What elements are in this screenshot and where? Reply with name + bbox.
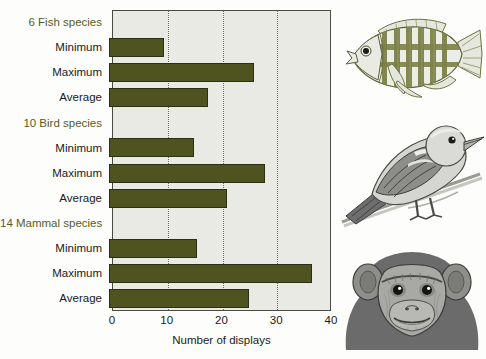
chart-bar-row: Average xyxy=(0,85,338,110)
chart-bar-row: Minimum xyxy=(0,236,338,261)
chart-bar-row: Average xyxy=(0,286,338,311)
group-label: 6 Fish species xyxy=(0,16,108,29)
bird-illustration xyxy=(338,112,486,230)
chart-bar-row: Maximum xyxy=(0,261,338,286)
fish-illustration xyxy=(338,2,486,112)
group-label: 14 Mammal species xyxy=(0,217,108,230)
bar-label: Average xyxy=(0,192,108,205)
bar-track xyxy=(108,85,338,110)
chart-bar-row: Maximum xyxy=(0,60,338,85)
bar-track xyxy=(108,10,338,35)
bar-track xyxy=(108,110,338,135)
bar-label: Minimum xyxy=(0,41,108,54)
bar-track xyxy=(108,161,338,186)
x-tick-label: 10 xyxy=(160,314,173,326)
bar-label: Average xyxy=(0,91,108,104)
figure: 6 Fish speciesMinimumMaximumAverage10 Bi… xyxy=(0,0,486,359)
bar-track xyxy=(108,236,338,261)
x-tick-label: 0 xyxy=(109,314,115,326)
chart-bar-row: Minimum xyxy=(0,35,338,60)
chart-group-row: 10 Bird species xyxy=(0,110,338,135)
chart-bar-row: Average xyxy=(0,186,338,211)
bar xyxy=(109,164,265,183)
mammal-illustration xyxy=(338,232,486,357)
x-tick-label: 30 xyxy=(270,314,283,326)
chart-group-row: 14 Mammal species xyxy=(0,211,338,236)
x-tick-label: 20 xyxy=(215,314,228,326)
bar xyxy=(109,239,197,258)
bar-label: Average xyxy=(0,292,108,305)
chart-bar-row: Maximum xyxy=(0,161,338,186)
bar-track xyxy=(108,261,338,286)
bar-track xyxy=(108,35,338,60)
bar-label: Maximum xyxy=(0,167,108,180)
bar-label: Maximum xyxy=(0,267,108,280)
bar-track xyxy=(108,135,338,160)
bar xyxy=(109,264,312,283)
bar-label: Minimum xyxy=(0,142,108,155)
x-tick-label: 40 xyxy=(325,314,338,326)
illustration-panel xyxy=(338,0,486,359)
x-axis-title: Number of displays xyxy=(112,334,331,346)
chart-rows: 6 Fish speciesMinimumMaximumAverage10 Bi… xyxy=(0,10,338,311)
chart-group-row: 6 Fish species xyxy=(0,10,338,35)
x-axis-ticks: 010203040 xyxy=(0,314,338,332)
group-label: 10 Bird species xyxy=(0,117,108,130)
bar xyxy=(109,138,194,157)
chart-bar-row: Minimum xyxy=(0,135,338,160)
bar xyxy=(109,38,164,57)
bar xyxy=(109,63,254,82)
chart-panel: 6 Fish speciesMinimumMaximumAverage10 Bi… xyxy=(0,0,338,359)
bar xyxy=(109,88,208,107)
bar-label: Maximum xyxy=(0,66,108,79)
bar-track xyxy=(108,186,338,211)
bar-track xyxy=(108,211,338,236)
bar xyxy=(109,289,249,308)
bar-label: Minimum xyxy=(0,242,108,255)
bar xyxy=(109,189,227,208)
bar-track xyxy=(108,286,338,311)
bar-track xyxy=(108,60,338,85)
